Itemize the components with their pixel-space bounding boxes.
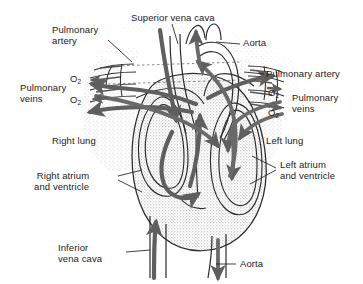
- label-pulmonary-veins-left: Pulmonary veins: [20, 82, 66, 104]
- heart-body: [132, 74, 266, 251]
- label-superior-vena-cava: Superior vena cava: [131, 12, 215, 23]
- label-aorta-top: Aorta: [243, 37, 266, 48]
- o2-right-lower-subscript: 2: [275, 112, 279, 119]
- o2-right-upper-subscript: 2: [275, 92, 279, 99]
- heart-circulation-diagram: Pulmonary artery Superior vena cava Aort…: [0, 0, 363, 284]
- label-right-atrium-and-ventricle: Right atrium and ventricle: [34, 170, 89, 192]
- label-right-lung: Right lung: [52, 135, 96, 146]
- label-left-lung: Left lung: [266, 135, 303, 146]
- label-left-atrium-and-ventricle: Left atrium and ventricle: [280, 159, 335, 181]
- label-pulmonary-artery-left: Pulmonary artery: [52, 24, 98, 46]
- o2-right-upper: O2: [268, 88, 279, 99]
- label-pulmonary-veins-right: Pulmonary veins: [292, 92, 338, 114]
- o2-left-upper-subscript: 2: [77, 78, 81, 85]
- label-inferior-vena-cava: Inferior vena cava: [58, 242, 102, 264]
- o2-left-lower-subscript: 2: [77, 99, 81, 106]
- label-pulmonary-artery-right: Pulmonary artery: [266, 68, 340, 79]
- o2-right-lower: O2: [268, 108, 279, 119]
- leader-inferior-vena-cava: [126, 250, 150, 252]
- o2-left-lower: O2: [70, 95, 81, 106]
- label-aorta-bottom: Aorta: [240, 258, 263, 269]
- o2-left-upper: O2: [70, 74, 81, 85]
